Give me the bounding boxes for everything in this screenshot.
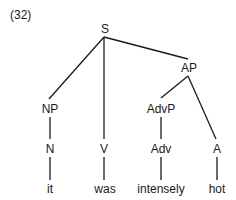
leaf-it: it: [47, 182, 53, 196]
leaf-intensely: intensely: [137, 182, 184, 196]
node-n: N: [46, 142, 55, 156]
node-ap: AP: [181, 61, 197, 75]
edge-s-ap: [104, 37, 188, 59]
node-adv: Adv: [151, 142, 172, 156]
edge-ap-advp: [161, 76, 188, 98]
leaf-was: was: [94, 182, 115, 196]
node-s: S: [101, 22, 109, 36]
edge-ap-a: [188, 76, 216, 139]
leaf-hot: hot: [209, 182, 226, 196]
node-advp: AdvP: [147, 102, 176, 116]
tree-edges: [0, 0, 236, 200]
edge-s-np: [49, 37, 104, 99]
node-a: A: [213, 142, 221, 156]
node-v: V: [100, 142, 108, 156]
node-np: NP: [42, 102, 59, 116]
